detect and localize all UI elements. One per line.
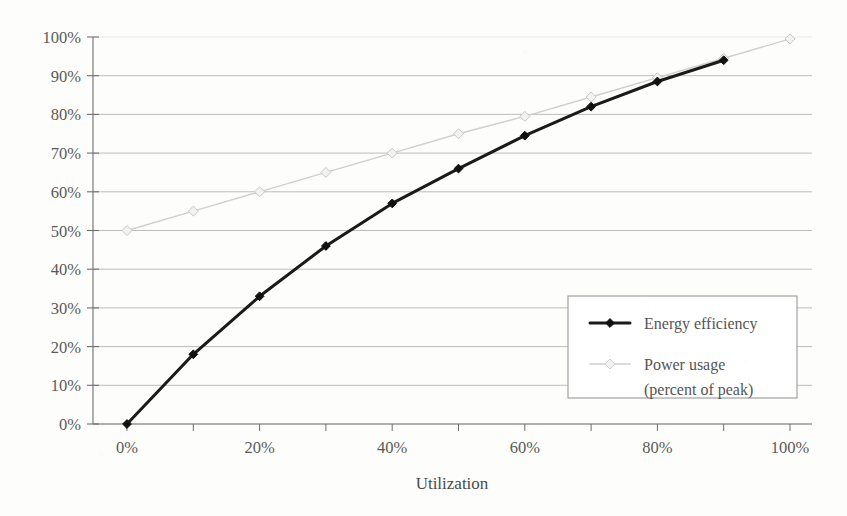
y-axis-tick-label: 90% [51,67,82,86]
x-axis-tick-label: 20% [244,438,275,457]
y-axis-tick-label: 30% [51,299,82,318]
x-axis-tick-label: 100% [771,438,810,457]
legend-item-label: (percent of peak) [644,381,753,399]
y-axis-tick-label: 50% [51,222,82,241]
y-axis-tick-label: 10% [51,376,82,395]
y-axis-tick-label: 20% [51,338,82,357]
chart-legend[interactable]: Energy efficiencyPower usage(percent of … [568,296,797,399]
y-axis-tick-label: 60% [51,183,82,202]
y-axis-tick-label: 80% [51,105,82,124]
y-axis-tick-label: 100% [43,28,82,47]
line-chart: 0%10%20%30%40%50%60%70%80%90%100% 0%20%4… [0,0,847,516]
y-axis-tick-label: 70% [51,144,82,163]
x-axis-tick-label: 0% [116,438,138,457]
x-axis-tick-label: 40% [377,438,408,457]
x-axis-tick-label: 80% [642,438,673,457]
legend-item-label: Power usage [644,356,725,374]
x-axis-tick-label: 60% [510,438,541,457]
y-axis-tick-label: 40% [51,260,82,279]
legend-item-label: Energy efficiency [644,315,758,333]
x-axis-title: Utilization [416,474,489,493]
y-axis-tick-label: 0% [59,415,81,434]
chart-container: 0%10%20%30%40%50%60%70%80%90%100% 0%20%4… [0,0,847,516]
